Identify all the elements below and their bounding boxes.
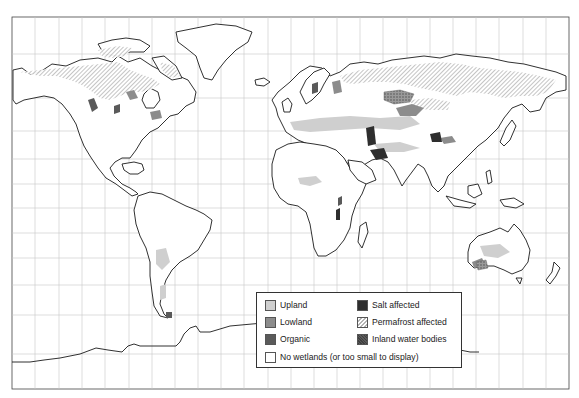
legend-label: Lowland — [280, 317, 312, 327]
legend-label: Inland water bodies — [372, 334, 447, 344]
legend-item-water: Inland water bodies — [357, 333, 447, 345]
legend-label: Organic — [280, 334, 310, 344]
upland-swatch-icon — [265, 300, 276, 311]
map-legend: Upland Lowland Organic Salt affected Per… — [256, 292, 462, 368]
legend-item-permafrost: Permafrost affected — [357, 316, 447, 328]
lowland-swatch-icon — [265, 317, 276, 328]
legend-item-upland: Upland — [265, 299, 307, 311]
inland-water-swatch-icon — [357, 334, 368, 345]
legend-item-lowland: Lowland — [265, 316, 312, 328]
legend-item-salt: Salt affected — [357, 299, 420, 311]
permafrost-swatch-icon — [357, 317, 368, 328]
legend-label: Salt affected — [372, 300, 420, 310]
organic-swatch-icon — [265, 334, 276, 345]
legend-label: No wetlands (or too small to display) — [280, 352, 419, 362]
legend-label: Permafrost affected — [372, 317, 447, 327]
legend-label: Upland — [280, 300, 307, 310]
salt-affected-swatch-icon — [357, 300, 368, 311]
legend-item-organic: Organic — [265, 333, 310, 345]
no-wetlands-swatch-icon — [265, 352, 276, 363]
legend-item-none: No wetlands (or too small to display) — [265, 351, 419, 363]
